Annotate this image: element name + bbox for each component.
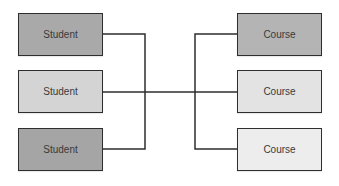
course-box-2-label: Course <box>263 86 295 97</box>
student-box-1[interactable]: Student <box>18 13 103 56</box>
course-box-2[interactable]: Course <box>237 70 322 113</box>
diagram-canvas: Student Student Student Course Course Co… <box>0 0 339 186</box>
student-box-1-label: Student <box>43 29 77 40</box>
course-box-1[interactable]: Course <box>237 13 322 56</box>
student-box-3-label: Student <box>43 144 77 155</box>
student-box-3[interactable]: Student <box>18 128 103 171</box>
course-box-3-label: Course <box>263 144 295 155</box>
student-box-2[interactable]: Student <box>18 70 103 113</box>
student-box-2-label: Student <box>43 86 77 97</box>
course-box-1-label: Course <box>263 29 295 40</box>
course-box-3[interactable]: Course <box>237 128 322 171</box>
